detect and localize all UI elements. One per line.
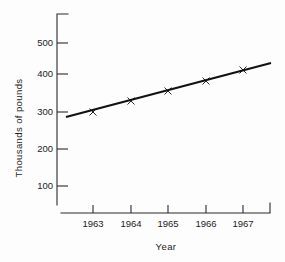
y-axis-tick-labels: 500 400 300 200 100 xyxy=(37,37,53,191)
x-axis-title: Year xyxy=(156,241,177,252)
y-axis-title: Thousands of pounds xyxy=(13,79,24,178)
y-tick-label-100: 100 xyxy=(37,180,53,191)
x-tick-label-1963: 1963 xyxy=(82,218,103,229)
x-axis-ticks xyxy=(93,205,243,213)
y-tick-label-200: 200 xyxy=(37,143,53,154)
data-point-markers xyxy=(90,67,247,116)
x-axis-spine xyxy=(61,203,270,213)
x-tick-label-1964: 1964 xyxy=(120,218,141,229)
line-chart: 500 400 300 200 100 1963 1964 1965 1966 … xyxy=(0,0,285,262)
x-tick-label-1967: 1967 xyxy=(232,218,253,229)
y-tick-label-300: 300 xyxy=(37,106,53,117)
x-tick-label-1966: 1966 xyxy=(195,218,216,229)
y-tick-label-500: 500 xyxy=(37,37,53,48)
x-tick-label-1965: 1965 xyxy=(157,218,178,229)
x-axis-tick-labels: 1963 1964 1965 1966 1967 xyxy=(82,218,253,229)
y-tick-label-400: 400 xyxy=(37,68,53,79)
y-axis-ticks xyxy=(57,43,68,186)
chart-figure: 500 400 300 200 100 1963 1964 1965 1966 … xyxy=(0,0,285,262)
